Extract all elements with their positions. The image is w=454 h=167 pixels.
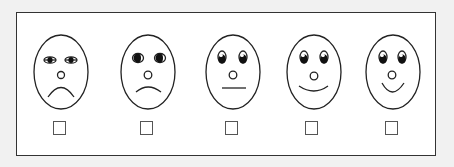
face-sad-icon	[121, 35, 175, 109]
face-very-happy-icon	[366, 35, 420, 109]
checkbox-very-sad[interactable]	[53, 121, 66, 135]
face-happy-icon	[287, 35, 341, 109]
checkbox-sad[interactable]	[140, 121, 153, 135]
checkbox-neutral[interactable]	[225, 121, 238, 135]
face-neutral-icon	[206, 35, 260, 109]
checkbox-happy[interactable]	[305, 121, 318, 135]
checkbox-very-happy[interactable]	[385, 121, 398, 135]
face-very-sad-icon	[34, 35, 88, 109]
faces-layer	[0, 0, 454, 167]
